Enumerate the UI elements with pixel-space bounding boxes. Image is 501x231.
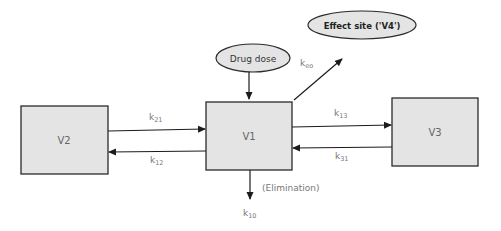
k12-label: k12 bbox=[150, 155, 164, 167]
drug-dose-label: Drug dose bbox=[230, 54, 277, 64]
elimination-label: (Elimination) bbox=[262, 183, 319, 193]
k10-label: k10 bbox=[243, 208, 257, 220]
compartment-v2-label: V2 bbox=[57, 135, 70, 146]
effect-site-label: Effect site ('V4') bbox=[324, 21, 401, 31]
k31-label: k31 bbox=[335, 151, 349, 163]
compartment-v3-label: V3 bbox=[428, 127, 441, 138]
compartment-v1-label: V1 bbox=[242, 131, 255, 142]
k13-label: k13 bbox=[334, 108, 348, 120]
effect-site-node: Effect site ('V4') bbox=[308, 11, 416, 39]
keo-label: keo bbox=[300, 58, 313, 70]
compartment-v1: V1 bbox=[206, 102, 292, 170]
k31-arrow bbox=[293, 147, 392, 148]
k21-label: k21 bbox=[149, 112, 163, 124]
k12-arrow bbox=[109, 151, 206, 152]
drug-dose-node: Drug dose bbox=[216, 44, 290, 72]
pk-diagram: V2 V1 V3 Drug dose Effect site ('V4') ke… bbox=[0, 0, 501, 231]
k21-arrow bbox=[108, 129, 205, 131]
k13-arrow bbox=[292, 125, 391, 127]
compartment-v3: V3 bbox=[392, 98, 478, 166]
compartment-v2: V2 bbox=[21, 106, 108, 174]
